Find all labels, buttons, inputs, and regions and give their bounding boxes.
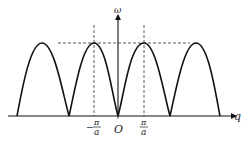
q-axis-label: q — [234, 110, 241, 123]
tick-label-neg-pi-over-a: − π a — [86, 118, 101, 137]
tick-label-pos-pi-over-a: π a — [140, 118, 148, 137]
svg-text:π: π — [93, 118, 100, 127]
omega-axis-label: ω — [114, 5, 122, 15]
origin-label: O — [114, 123, 123, 136]
svg-text:−: − — [86, 122, 94, 132]
svg-text:π: π — [140, 118, 147, 127]
svg-text:a: a — [141, 127, 146, 137]
svg-text:a: a — [94, 127, 99, 137]
dispersion-diagram: ω q O − π a π a — [0, 0, 243, 143]
